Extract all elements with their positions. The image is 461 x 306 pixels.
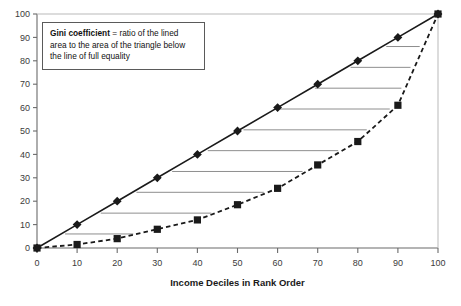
y-tick-label: 0: [25, 243, 30, 253]
y-tick-label: 60: [20, 103, 30, 113]
lorenz-marker-square: [114, 235, 121, 242]
x-tick-label: 60: [273, 258, 283, 268]
x-tick-label: 100: [430, 258, 445, 268]
lorenz-marker-square: [194, 216, 201, 223]
equality-marker-diamond: [153, 173, 162, 182]
lorenz-marker-square: [234, 201, 241, 208]
y-tick-label: 90: [20, 33, 30, 43]
x-axis-ticks: 0102030405060708090100: [34, 248, 445, 268]
lorenz-marker-square: [274, 185, 281, 192]
equality-marker-diamond: [233, 127, 242, 136]
x-tick-label: 30: [152, 258, 162, 268]
gini-term: Gini coefficient: [50, 28, 110, 38]
x-tick-label: 80: [353, 258, 363, 268]
equals-sign: =: [112, 28, 117, 38]
x-axis-title: Income Deciles in Rank Order: [170, 277, 305, 288]
gini-annotation-text: Gini coefficient = ratio of the lined ar…: [50, 28, 197, 63]
lorenz-marker-square: [74, 241, 81, 248]
hatched-area: [65, 47, 420, 234]
lorenz-marker-square: [33, 244, 40, 251]
equality-marker-diamond: [353, 56, 362, 65]
equality-marker-diamond: [273, 103, 282, 112]
y-tick-label: 70: [20, 79, 30, 89]
equality-marker-diamond: [113, 197, 122, 206]
y-axis-ticks: 0102030405060708090100: [15, 9, 37, 253]
x-tick-label: 20: [112, 258, 122, 268]
x-tick-label: 0: [34, 258, 39, 268]
y-tick-label: 80: [20, 56, 30, 66]
equality-marker-diamond: [394, 33, 403, 42]
chart-figure: 0102030405060708090100010203040506070809…: [0, 0, 461, 306]
y-tick-label: 20: [20, 196, 30, 206]
y-tick-label: 10: [20, 220, 30, 230]
y-tick-label: 100: [15, 9, 30, 19]
x-tick-label: 50: [232, 258, 242, 268]
gini-annotation-box: Gini coefficient = ratio of the lined ar…: [42, 22, 205, 70]
x-tick-label: 70: [313, 258, 323, 268]
y-tick-label: 50: [20, 126, 30, 136]
equality-marker-diamond: [193, 150, 202, 159]
x-tick-label: 40: [192, 258, 202, 268]
lorenz-marker-square: [354, 138, 361, 145]
equality-marker-diamond: [313, 80, 322, 89]
lorenz-marker-square: [434, 10, 441, 17]
x-tick-label: 10: [72, 258, 82, 268]
lorenz-marker-square: [314, 161, 321, 168]
lorenz-marker-square: [394, 102, 401, 109]
x-tick-label: 90: [393, 258, 403, 268]
equality-marker-diamond: [73, 220, 82, 229]
y-tick-label: 40: [20, 150, 30, 160]
lorenz-marker-square: [154, 226, 161, 233]
y-tick-label: 30: [20, 173, 30, 183]
